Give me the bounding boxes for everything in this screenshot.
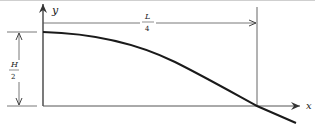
svg-text:2: 2 <box>11 73 15 81</box>
svg-text:H: H <box>10 60 19 69</box>
length-dimension-label: L 4 <box>142 12 154 33</box>
svg-text:4: 4 <box>145 25 150 33</box>
x-axis-label: x <box>306 100 312 111</box>
y-axis-label: y <box>51 4 59 17</box>
deflection-curve <box>43 32 296 123</box>
height-dimension-label: H 2 <box>9 60 19 81</box>
svg-text:L: L <box>144 12 150 21</box>
deflection-diagram: y x H 2 L 4 <box>0 0 315 124</box>
